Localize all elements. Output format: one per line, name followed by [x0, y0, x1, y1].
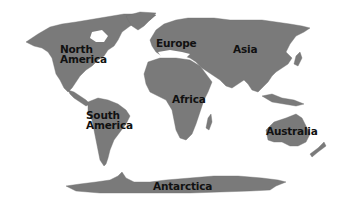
- label-north-america: North America: [60, 44, 107, 64]
- label-europe: Europe: [156, 38, 196, 48]
- world-map: North America Europe Asia Africa South A…: [0, 0, 346, 209]
- label-africa: Africa: [172, 94, 206, 104]
- label-australia: Australia: [266, 126, 318, 136]
- central-america-shape: [68, 90, 90, 106]
- japan-shape: [294, 52, 302, 66]
- label-antarctica: Antarctica: [153, 181, 212, 191]
- indonesia-shape: [262, 94, 304, 106]
- new-zealand-shape: [310, 142, 326, 157]
- label-asia: Asia: [233, 44, 257, 54]
- madagascar-shape: [206, 114, 212, 130]
- greenland-shape: [126, 12, 156, 30]
- label-south-america: South America: [86, 110, 133, 130]
